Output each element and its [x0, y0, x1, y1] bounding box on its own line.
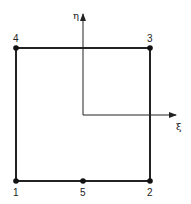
node-2-dot [147, 178, 153, 184]
node-2-label: 2 [147, 187, 153, 198]
labels: 12345ξη [13, 10, 182, 198]
node-3-dot [147, 45, 153, 51]
local-axes [83, 14, 176, 115]
node-4-label: 4 [13, 33, 19, 44]
node-5-dot [80, 178, 86, 184]
node-1-dot [13, 178, 19, 184]
isoparametric-element-diagram: 12345ξη [0, 0, 191, 204]
eta-axis-label: η [73, 10, 79, 21]
node-1-label: 1 [13, 187, 19, 198]
node-4-dot [13, 45, 19, 51]
xi-axis-label: ξ [176, 121, 182, 132]
node-5-label: 5 [80, 187, 86, 198]
node-3-label: 3 [147, 33, 153, 44]
